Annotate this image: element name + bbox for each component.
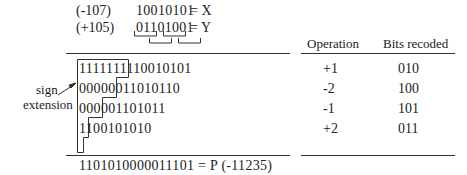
bracket-group-4 [179, 38, 201, 43]
partial-product-3: 000001101011 [79, 101, 166, 117]
table-row-1-bits: 010 [398, 61, 419, 77]
partial-product-1: 1111111110010101 [79, 61, 192, 77]
table-row-2-bits: 100 [398, 81, 419, 97]
sign-extension-label-line1: sign [36, 82, 58, 98]
partial-product-2: 00000011010110 [79, 81, 180, 97]
table-row-2-operation: -2 [323, 81, 335, 97]
bracket-group-3 [150, 38, 172, 43]
table-header-operation: Operation [307, 36, 359, 52]
table-header-bits: Bits recoded [383, 36, 448, 52]
table-row-3-operation: -1 [323, 101, 335, 117]
bottom-rule-right [301, 155, 455, 156]
bracket-group-1 [135, 31, 157, 36]
sign-extension-arrow [58, 83, 76, 95]
product-result: 1101010000011101 = P (-11235) [79, 158, 272, 174]
table-row-4-operation: +2 [323, 121, 338, 137]
table-row-4-bits: 011 [398, 121, 418, 137]
table-row-3-bits: 101 [398, 101, 419, 117]
top-rule-left [66, 53, 290, 54]
bottom-rule-left [66, 155, 290, 156]
diagram-lines [0, 0, 467, 175]
top-rule-right [301, 53, 455, 54]
partial-product-4: 1100101010 [79, 121, 151, 137]
bracket-group-2 [164, 31, 186, 36]
sign-extension-label-line2: extension [23, 97, 73, 113]
table-row-1-operation: +1 [323, 61, 338, 77]
